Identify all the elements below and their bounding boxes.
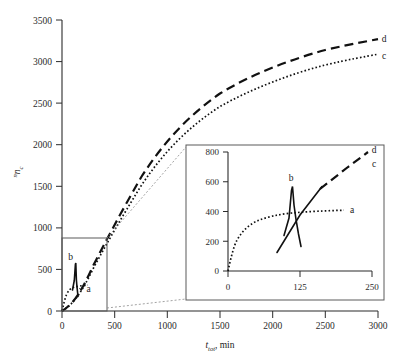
y-axis-title-sub: c <box>17 166 24 169</box>
y-tick-label-2000: 2000 <box>33 140 52 150</box>
curve-label-d-inset: d <box>372 145 377 155</box>
inset-y-tick-label-0: 0 <box>215 266 220 276</box>
inset-y-tick-label-800: 800 <box>206 147 220 157</box>
curve-label-c-main: c <box>382 51 386 61</box>
chart-svg: 3500 3000 2500 2000 1500 1000 500 0 0 50… <box>0 0 395 360</box>
inset-chart: 800 600 400 200 0 0 125 250 b a <box>186 145 384 300</box>
x-tick-label-2000: 2000 <box>263 321 282 331</box>
y-tick-label-1500: 1500 <box>33 182 52 192</box>
x-tick-label-1500: 1500 <box>211 321 230 331</box>
y-tick-label-3000: 3000 <box>33 57 52 67</box>
x-tick-label-500: 500 <box>108 321 123 331</box>
y-tick-label-1000: 1000 <box>33 223 52 233</box>
chart-figure: 3500 3000 2500 2000 1500 1000 500 0 0 50… <box>0 0 395 360</box>
x-tick-label-3000: 3000 <box>369 321 388 331</box>
x-axis-title-rest: , min <box>215 340 235 350</box>
x-tick-label-1000: 1000 <box>158 321 177 331</box>
y-tick-label-0: 0 <box>47 307 52 317</box>
inset-x-tick-label-0: 0 <box>226 282 231 292</box>
x-tick-label-0: 0 <box>60 321 65 331</box>
inset-y-tick-label-400: 400 <box>206 207 220 217</box>
y-tick-label-2500: 2500 <box>33 99 52 109</box>
inset-frame <box>186 145 384 300</box>
y-tick-label-500: 500 <box>38 265 53 275</box>
inset-y-tick-label-200: 200 <box>206 237 220 247</box>
inset-x-tick-label-250: 250 <box>365 282 379 292</box>
y-tick-label-3500: 3500 <box>33 16 52 26</box>
x-tick-label-2500: 2500 <box>316 321 335 331</box>
curve-label-b-main: b <box>68 252 73 262</box>
curve-label-d-main: d <box>382 34 387 44</box>
inset-y-tick-label-600: 600 <box>206 177 220 187</box>
curve-label-c-inset: c <box>372 159 376 169</box>
curve-label-b-inset: b <box>289 173 294 183</box>
inset-x-tick-label-125: 125 <box>293 282 307 292</box>
